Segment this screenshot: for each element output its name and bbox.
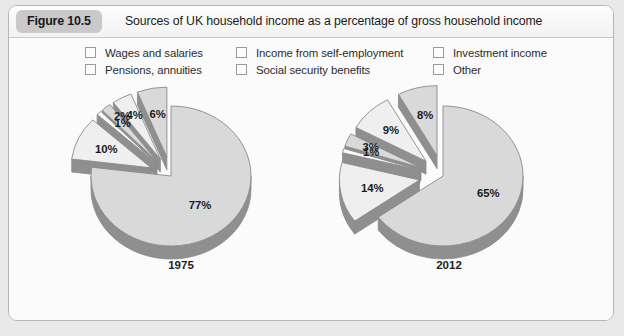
pie-slice-value-label: 14% xyxy=(361,182,384,194)
figure-panel: Figure 10.5 Sources of UK household inco… xyxy=(8,5,614,321)
pie-chart-1975-year-label: 1975 xyxy=(51,259,311,271)
legend-column-1: Wages and salaries Pensions, annuities xyxy=(85,44,203,78)
legend-item-social-security-benefits[interactable]: Social security benefits xyxy=(236,61,403,78)
pie-slice-value-label: 4% xyxy=(126,109,142,121)
pie-slice-value-label: 8% xyxy=(417,109,433,121)
pie-chart-2012: 65%14%1%3%9%8% xyxy=(319,80,579,264)
legend-swatch-icon xyxy=(236,64,247,75)
legend-column-2: Income from self-employment Social secur… xyxy=(236,44,403,78)
pie-slice-value-label: 6% xyxy=(149,108,165,120)
legend-item-label: Income from self-employment xyxy=(256,47,403,59)
figure-body: Wages and salaries Pensions, annuities I… xyxy=(9,38,613,321)
legend-item-wages-and-salaries[interactable]: Wages and salaries xyxy=(85,44,203,61)
pie-chart-1975-svg: 77%10%1%2%4%6% xyxy=(51,80,311,260)
legend-item-label: Social security benefits xyxy=(256,64,370,76)
figure-number-badge: Figure 10.5 xyxy=(16,10,102,33)
legend-item-pensions-annuities[interactable]: Pensions, annuities xyxy=(85,61,203,78)
figure-title: Sources of UK household income as a perc… xyxy=(125,10,542,33)
legend-item-label: Pensions, annuities xyxy=(105,64,202,76)
figure-header: Figure 10.5 Sources of UK household inco… xyxy=(9,6,613,38)
pie-slice-value-label: 9% xyxy=(383,124,399,136)
legend-swatch-icon xyxy=(85,47,96,58)
legend-item-label: Wages and salaries xyxy=(105,47,203,59)
pie-slice-value-label: 10% xyxy=(95,143,118,155)
pie-chart-2012-svg: 65%14%1%3%9%8% xyxy=(319,80,579,260)
legend-item-label: Investment income xyxy=(453,47,547,59)
legend-swatch-icon xyxy=(85,64,96,75)
legend-column-3: Investment income Other xyxy=(433,44,547,78)
legend-swatch-icon xyxy=(236,47,247,58)
legend-swatch-icon xyxy=(433,64,444,75)
legend-item-income-from-self-employment[interactable]: Income from self-employment xyxy=(236,44,403,61)
pie-slice-value-label: 65% xyxy=(477,187,500,199)
legend-item-investment-income[interactable]: Investment income xyxy=(433,44,547,61)
pie-slice-value-label: 3% xyxy=(362,141,378,153)
legend-item-label: Other xyxy=(453,64,481,76)
pie-chart-1975: 77%10%1%2%4%6% xyxy=(51,80,311,264)
legend-swatch-icon xyxy=(433,47,444,58)
pie-slice-value-label: 77% xyxy=(189,199,212,211)
legend-item-other[interactable]: Other xyxy=(433,61,547,78)
pie-chart-2012-year-label: 2012 xyxy=(319,259,579,271)
